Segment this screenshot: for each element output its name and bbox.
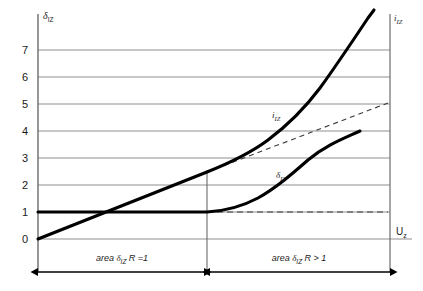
y-tick-0: 0 [22, 233, 28, 245]
curves [38, 10, 374, 239]
region-label-left: area δIZ R =1 [96, 253, 148, 265]
curve-delta-iz [38, 131, 360, 212]
y-tick-5: 5 [22, 98, 28, 110]
label-upper-curve-i-iz: iIZ [272, 110, 281, 122]
label-lower-curve-delta-iz: δIZ [276, 170, 286, 182]
curve-labels: iIZ δIZ [272, 110, 286, 182]
chart-svg: 7 6 5 4 3 2 1 0 δIZ Uz [0, 0, 423, 291]
curve-current-i-iz [38, 10, 374, 239]
region-labels: area δIZ R =1 area δIZ R > 1 [96, 253, 327, 265]
y-tick-4: 4 [22, 125, 28, 137]
y-axis-title-subscript: IZ [48, 16, 54, 23]
x-axis-title-subscript: z [403, 232, 407, 239]
y-tick-7: 7 [22, 44, 28, 56]
x-axis-title-symbol: U [396, 226, 403, 237]
region-label-right-prefix: area [272, 253, 293, 263]
y-tick-2: 2 [22, 179, 28, 191]
region-label-right-suffix: R > 1 [302, 253, 326, 263]
y-axis-tick-labels: 7 6 5 4 3 2 1 0 [22, 44, 28, 245]
y-tick-1: 1 [22, 206, 28, 218]
label-upper-curve-subscript: IZ [274, 115, 281, 122]
region-label-right: area δIZ R > 1 [272, 253, 327, 265]
region-label-left-suffix: R =1 [126, 253, 148, 263]
y-tick-6: 6 [22, 71, 28, 83]
top-right-curve-subscript: IZ [396, 18, 403, 25]
y-tick-3: 3 [22, 152, 28, 164]
label-lower-curve-subscript: IZ [279, 175, 286, 182]
chart-container: 7 6 5 4 3 2 1 0 δIZ Uz [0, 0, 423, 291]
x-axis-title: Uz [396, 226, 407, 239]
top-right-curve-title: iIZ [394, 13, 403, 25]
region-label-left-prefix: area [96, 253, 117, 263]
y-axis-title: δIZ [43, 10, 53, 23]
axis-titles: δIZ Uz iIZ [43, 10, 407, 239]
